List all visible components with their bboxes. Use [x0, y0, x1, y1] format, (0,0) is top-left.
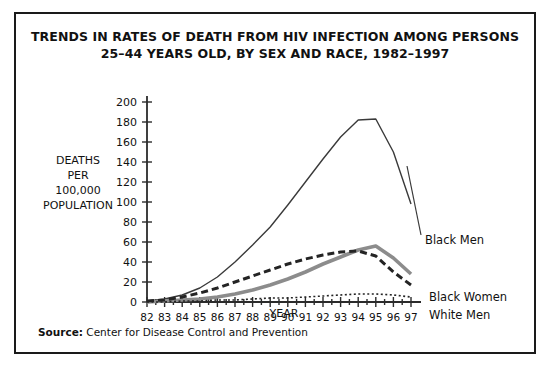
series-label-white-men: White Men — [429, 308, 490, 322]
x-tick-label: 88 — [246, 311, 259, 323]
chart-title-line-2: 25–44 YEARS OLD, BY SEX AND RACE, 1982–1… — [16, 45, 534, 62]
x-tick-label: 95 — [369, 311, 382, 323]
chart-title: TRENDS IN RATES OF DEATH FROM HIV INFECT… — [16, 28, 534, 62]
series-label-black-men: Black Men — [425, 233, 484, 247]
line-chart-svg: DEATHS PER 100,000 POPULATION 0204060801… — [16, 74, 538, 324]
x-tick-label: 85 — [193, 311, 206, 323]
chart-title-line-1: TRENDS IN RATES OF DEATH FROM HIV INFECT… — [31, 29, 519, 44]
y-tick-label: 140 — [116, 156, 137, 169]
y-tick-label: 180 — [116, 116, 137, 129]
y-tick-label: 20 — [123, 276, 137, 289]
x-tick-label: 96 — [387, 311, 401, 323]
x-axis-title: YEAR — [269, 307, 299, 320]
data-series-group — [147, 119, 411, 302]
x-tick-label: 83 — [158, 311, 171, 323]
y-tick-label: 0 — [130, 296, 137, 309]
x-tick-label: 94 — [352, 311, 366, 323]
y-axis-title: DEATHS PER 100,000 POPULATION — [43, 154, 113, 212]
x-tick-label: 91 — [299, 311, 312, 323]
source-note: Source: Center for Disease Control and P… — [38, 326, 308, 338]
source-label: Source: — [38, 326, 83, 338]
x-tick-label: 93 — [334, 311, 347, 323]
y-axis-title-line-1: DEATHS — [56, 154, 100, 167]
y-tick-label: 120 — [116, 176, 137, 189]
x-tick-label: 92 — [316, 311, 329, 323]
plot-area: DEATHS PER 100,000 POPULATION 0204060801… — [16, 74, 538, 324]
y-axis-title-line-2: PER — [67, 169, 89, 182]
y-tick-label: 60 — [123, 236, 137, 249]
y-tick-label: 200 — [116, 96, 137, 109]
x-tick-label: 86 — [211, 311, 225, 323]
series-label-black-women: Black Women — [429, 290, 507, 304]
series-line-black-men — [147, 119, 411, 301]
y-tick-label: 80 — [123, 216, 137, 229]
x-tick-label: 97 — [404, 311, 417, 323]
source-text: Center for Disease Control and Preventio… — [86, 326, 308, 338]
y-tick-label: 160 — [116, 136, 137, 149]
y-tick-label: 40 — [123, 256, 137, 269]
y-axis-title-line-3: 100,000 — [55, 184, 101, 197]
x-tick-label: 82 — [140, 311, 153, 323]
y-axis-title-line-4: POPULATION — [43, 199, 113, 212]
y-tick-label: 100 — [116, 196, 137, 209]
chart-figure: TRENDS IN RATES OF DEATH FROM HIV INFECT… — [14, 12, 536, 354]
x-tick-label: 87 — [228, 311, 241, 323]
x-tick-label: 84 — [176, 311, 190, 323]
series-label-group: Black MenBlack WomenWhite MenWhite Women — [407, 166, 509, 324]
